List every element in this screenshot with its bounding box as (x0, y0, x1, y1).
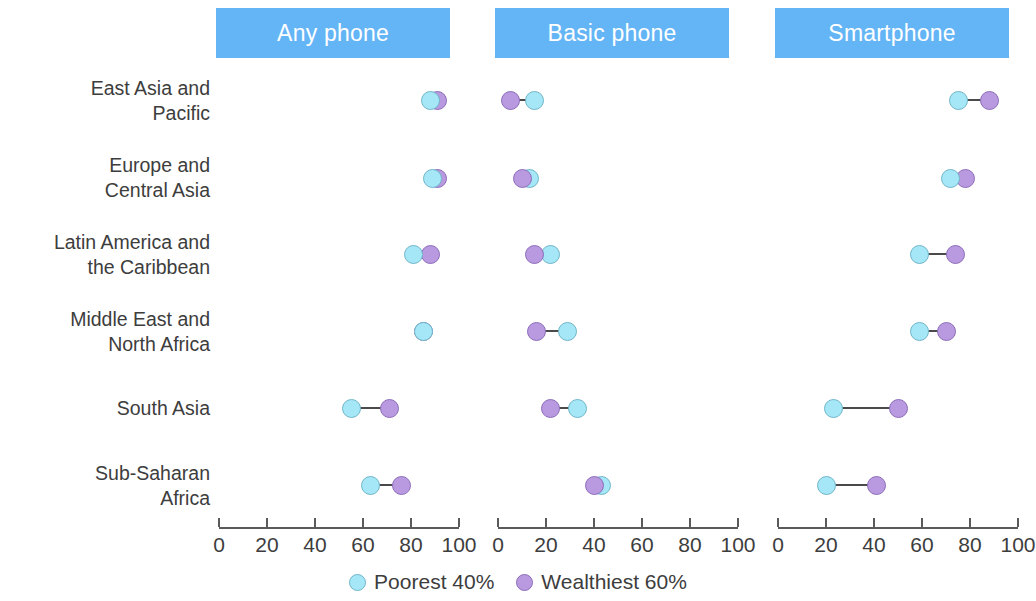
category-label-1: East Asia andPacific (0, 76, 210, 126)
category-label-line: Pacific (0, 101, 210, 126)
x-axis-tick-label: 60 (630, 533, 653, 557)
x-axis-tick (497, 518, 499, 527)
category-label-6: Sub-SaharanAfrica (0, 461, 210, 511)
data-point-poorest (414, 322, 433, 341)
x-axis-tick (873, 518, 875, 527)
x-axis-tick-label: 0 (492, 533, 504, 557)
data-point-poorest (342, 399, 361, 418)
data-point-poorest (824, 399, 843, 418)
chart-legend: Poorest 40%Wealthiest 60% (0, 570, 1036, 594)
data-point-poorest (421, 91, 440, 110)
data-point-wealthiest (501, 91, 520, 110)
x-axis-tick (218, 518, 220, 527)
data-point-poorest (525, 91, 544, 110)
x-axis-line-1 (219, 527, 459, 529)
legend-item-1[interactable]: Poorest 40% (349, 570, 494, 594)
x-axis-tick-label: 40 (862, 533, 885, 557)
data-point-poorest (423, 169, 442, 188)
x-axis-tick (266, 518, 268, 527)
category-label-line: the Caribbean (0, 255, 210, 280)
data-point-poorest (404, 245, 423, 264)
x-axis-tick (969, 518, 971, 527)
x-axis-tick-label: 0 (772, 533, 784, 557)
category-label-line: Sub-Saharan (0, 461, 210, 486)
data-point-wealthiest (541, 399, 560, 418)
x-axis-tick (689, 518, 691, 527)
x-axis-tick-label: 100 (441, 533, 476, 557)
x-axis-tick-label: 100 (720, 533, 755, 557)
x-axis-tick (737, 518, 739, 527)
data-point-wealthiest (937, 322, 956, 341)
x-axis-line-2 (498, 527, 738, 529)
data-point-poorest (541, 245, 560, 264)
x-axis-tick-label: 80 (958, 533, 981, 557)
category-label-line: Europe and (0, 153, 210, 178)
legend-label: Poorest 40% (374, 570, 494, 594)
data-point-wealthiest (392, 476, 411, 495)
category-label-line: North Africa (0, 332, 210, 357)
data-point-wealthiest (585, 476, 604, 495)
x-axis-tick (777, 518, 779, 527)
x-axis-line-3 (778, 527, 1018, 529)
x-axis-tick-label: 60 (910, 533, 933, 557)
category-label-line: South Asia (0, 396, 210, 421)
x-axis-tick (410, 518, 412, 527)
panel-title-3: Smartphone (775, 8, 1009, 58)
x-axis-tick (362, 518, 364, 527)
legend-label: Wealthiest 60% (541, 570, 687, 594)
x-axis-tick (545, 518, 547, 527)
x-axis-tick (641, 518, 643, 527)
data-point-wealthiest (867, 476, 886, 495)
data-point-poorest (949, 91, 968, 110)
panel-title-2: Basic phone (495, 8, 729, 58)
legend-item-2[interactable]: Wealthiest 60% (516, 570, 687, 594)
data-point-wealthiest (525, 245, 544, 264)
data-point-poorest (910, 245, 929, 264)
x-axis-tick-label: 80 (678, 533, 701, 557)
category-label-line: Middle East and (0, 307, 210, 332)
category-label-line: Latin America and (0, 230, 210, 255)
x-axis-tick-label: 20 (534, 533, 557, 557)
category-label-4: Middle East andNorth Africa (0, 307, 210, 357)
x-axis-tick-label: 40 (303, 533, 326, 557)
data-point-poorest (941, 169, 960, 188)
category-label-5: South Asia (0, 396, 210, 421)
x-axis-tick (921, 518, 923, 527)
category-label-line: Africa (0, 486, 210, 511)
x-axis-tick (593, 518, 595, 527)
x-axis-tick-label: 20 (255, 533, 278, 557)
x-axis-tick (1017, 518, 1019, 527)
data-point-wealthiest (980, 91, 999, 110)
legend-swatch-icon (349, 574, 366, 591)
data-point-poorest (910, 322, 929, 341)
category-label-line: East Asia and (0, 76, 210, 101)
x-axis-tick-label: 20 (814, 533, 837, 557)
data-point-poorest (558, 322, 577, 341)
x-axis-tick (458, 518, 460, 527)
legend-swatch-icon (516, 574, 533, 591)
x-axis-tick (825, 518, 827, 527)
x-axis-tick-label: 100 (1000, 533, 1035, 557)
data-point-wealthiest (421, 245, 440, 264)
x-axis-tick-label: 0 (213, 533, 225, 557)
category-label-line: Central Asia (0, 178, 210, 203)
dot-plot-figure: Any phoneBasic phoneSmartphoneEast Asia … (0, 0, 1036, 601)
data-point-poorest (361, 476, 380, 495)
data-point-wealthiest (946, 245, 965, 264)
data-point-poorest (568, 399, 587, 418)
x-axis-tick-label: 40 (582, 533, 605, 557)
x-axis-tick-label: 80 (399, 533, 422, 557)
data-point-wealthiest (889, 399, 908, 418)
x-axis-tick (314, 518, 316, 527)
panel-title-1: Any phone (216, 8, 450, 58)
data-point-wealthiest (513, 169, 532, 188)
category-label-3: Latin America andthe Caribbean (0, 230, 210, 280)
data-point-poorest (817, 476, 836, 495)
x-axis-tick-label: 60 (351, 533, 374, 557)
category-label-2: Europe andCentral Asia (0, 153, 210, 203)
data-point-wealthiest (380, 399, 399, 418)
data-point-wealthiest (527, 322, 546, 341)
